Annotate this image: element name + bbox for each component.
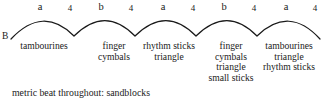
instrument-name: rhythm sticks: [137, 41, 201, 52]
phrase-beat-count-5: 4: [307, 4, 323, 13]
instrument-name: tambourines: [12, 41, 76, 52]
phrase-letter-2: b: [93, 2, 109, 13]
instrument-columns: tambourinesfingercymbalsrhythm stickstri…: [0, 41, 324, 89]
instrument-name: finger: [203, 41, 259, 52]
phrase-beat-count-1: 4: [62, 4, 78, 13]
instrument-name: cymbals: [92, 52, 136, 63]
instrument-name: finger: [92, 41, 136, 52]
phrase-beat-count-4: 4: [246, 4, 262, 13]
phrase-letter-1: a: [32, 2, 48, 13]
phrase-letter-3: a: [155, 2, 171, 13]
instrument-name: tambourines: [257, 41, 321, 52]
instrument-column-1: tambourines: [12, 41, 76, 52]
music-form-diagram: B a 4 b 4 a 4 b 4 a 4 tambourinesfingerc…: [0, 0, 324, 104]
phrase-arc-diagram: B a 4 b 4 a 4 b 4 a 4: [0, 0, 324, 42]
instrument-name: triangle: [137, 52, 201, 63]
instrument-column-3: rhythm stickstriangle: [137, 41, 201, 62]
phrase-letter-5: a: [278, 2, 294, 13]
phrase-letter-4: b: [216, 2, 232, 13]
instrument-name: small sticks: [203, 73, 259, 84]
metric-beat-caption: metric beat throughout: sandblocks: [12, 87, 150, 98]
instrument-column-2: fingercymbals: [92, 41, 136, 62]
phrase-arc-path: [11, 21, 320, 40]
instrument-column-5: tambourinestrianglerhythm sticks: [257, 41, 321, 73]
instrument-column-4: fingercymbalstrianglesmall sticks: [203, 41, 259, 83]
instrument-name: rhythm sticks: [257, 62, 321, 73]
phrase-beat-count-3: 4: [185, 4, 201, 13]
phrase-beat-count-2: 4: [123, 4, 139, 13]
